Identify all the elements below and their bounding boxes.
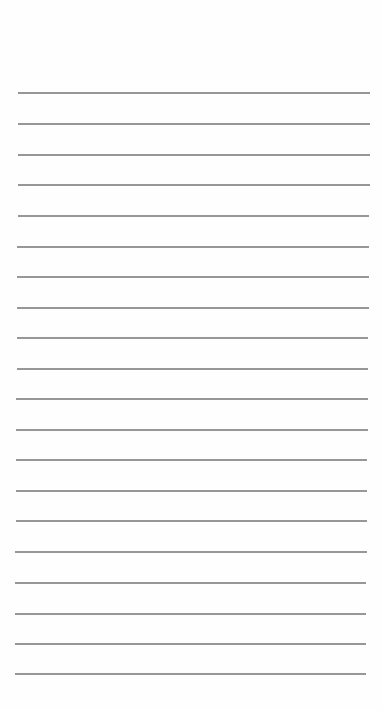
ruled-line [18,154,370,156]
ruled-line [15,582,366,584]
ruled-line [15,673,366,675]
ruled-line [15,613,366,615]
ruled-line [17,246,369,248]
ruled-line [16,490,367,492]
ruled-line [15,643,366,645]
ruled-line [18,123,370,125]
lined-paper-page [0,0,382,710]
ruled-line [15,551,367,553]
ruled-line [18,184,370,186]
ruled-line [16,429,368,431]
ruled-line [16,398,368,400]
ruled-line [16,459,367,461]
ruled-line [17,307,369,309]
ruled-line [17,337,368,339]
ruled-line [17,276,369,278]
ruled-line [17,368,368,370]
ruled-line [18,215,369,217]
ruled-line [16,520,367,522]
ruled-line [18,92,370,94]
